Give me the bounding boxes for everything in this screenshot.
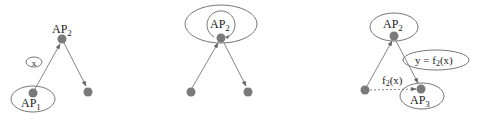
node-right: [244, 88, 253, 97]
node-label: AP: [21, 96, 37, 110]
node-ap2: AP2: [52, 22, 72, 44]
node-label-sub: 3: [425, 99, 430, 109]
diagram-canvas: x AP2 AP1 AP2: [0, 0, 478, 121]
node-left: [187, 88, 196, 97]
message-x: x: [26, 57, 42, 68]
message-label: x: [32, 58, 37, 68]
svg-text:AP2: AP2: [210, 17, 230, 33]
node-leaf: [84, 88, 93, 97]
node-label-sub: 1: [36, 102, 41, 112]
panel-3: AP2 y = f2(x) f2(x) AP3: [361, 13, 470, 109]
node-label-sub: 2: [225, 23, 230, 33]
node-label: AP: [52, 22, 68, 36]
svg-text:AP2: AP2: [383, 17, 403, 33]
result-rhs: (x): [440, 54, 453, 67]
panel-1: x AP2 AP1: [11, 22, 93, 112]
node-circle: [58, 35, 67, 44]
svg-text:AP3: AP3: [410, 93, 430, 109]
node-left: [361, 86, 370, 95]
node-ap2: AP2: [370, 13, 418, 41]
svg-text:AP1: AP1: [21, 96, 41, 112]
svg-text:y = f2(x): y = f2(x): [415, 54, 453, 68]
edge-label: f2(x): [382, 74, 403, 88]
node-label: AP: [383, 17, 399, 31]
node-label-sub: 2: [67, 28, 72, 38]
panel-2: AP2: [185, 5, 257, 97]
edge-ap2-to-leaf: [64, 43, 86, 86]
result-annotation: y = f2(x): [403, 50, 469, 70]
node-ap3: AP3: [400, 83, 444, 109]
node-ap1: AP1: [11, 86, 55, 112]
node-label: AP: [210, 17, 226, 31]
edge-left-to-ap2: [192, 43, 218, 88]
edge-ap2-to-right: [224, 43, 246, 86]
node-label-sub: 2: [398, 23, 403, 33]
node-circle: [390, 32, 399, 41]
node-circle: [217, 34, 226, 43]
result-lhs: y = f: [415, 54, 436, 66]
node-label: AP: [410, 93, 426, 107]
node-ap2: AP2: [185, 5, 257, 43]
self-loop-arrowhead-icon: [225, 35, 229, 39]
edge-left-to-ap3-dashed: [370, 89, 416, 90]
